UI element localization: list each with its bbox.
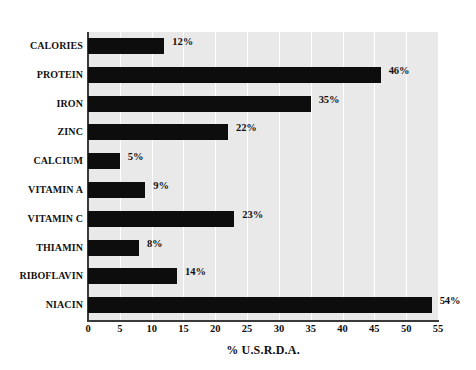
bar-row: 5% (88, 147, 438, 176)
bar (88, 182, 145, 198)
category-label: VITAMIN A (0, 176, 83, 205)
bar-row: 35% (88, 90, 438, 119)
bar (88, 38, 164, 54)
category-label: NIACIN (0, 291, 83, 320)
bar-row: 8% (88, 234, 438, 263)
category-label: CALCIUM (0, 147, 83, 176)
category-label: RIBOFLAVIN (0, 262, 83, 291)
bar-value-label: 14% (185, 266, 206, 277)
bar-row: 22% (88, 118, 438, 147)
bar-row: 54% (88, 291, 438, 320)
category-label: ZINC (0, 118, 83, 147)
bar-value-label: 22% (236, 122, 257, 133)
bar-value-label: 54% (440, 295, 461, 306)
bar-value-label: 23% (242, 209, 263, 220)
x-tick-label: 5 (117, 323, 122, 334)
x-tick-label: 50 (401, 323, 412, 334)
bar-value-label: 35% (319, 94, 340, 105)
bar-row: 12% (88, 32, 438, 61)
bar (88, 124, 228, 140)
x-tick-label: 55 (433, 323, 444, 334)
bar (88, 268, 177, 284)
x-axis-tick-labels: 0510152025303540455055 (88, 323, 438, 341)
bar-value-label: 5% (128, 151, 144, 162)
bar (88, 153, 120, 169)
bar-row: 14% (88, 262, 438, 291)
bar (88, 240, 139, 256)
x-tick-label: 40 (337, 323, 348, 334)
bar (88, 67, 381, 83)
category-label: PROTEIN (0, 61, 83, 90)
category-label: THIAMIN (0, 234, 83, 263)
bar-value-label: 12% (172, 36, 193, 47)
bar (88, 96, 311, 112)
x-tick-label: 35 (305, 323, 316, 334)
bar-value-label: 46% (389, 65, 410, 76)
x-tick-label: 15 (178, 323, 189, 334)
bar-row: 23% (88, 205, 438, 234)
bar (88, 211, 234, 227)
x-axis-line (87, 320, 439, 322)
category-label: CALORIES (0, 32, 83, 61)
x-tick-label: 30 (274, 323, 285, 334)
bar-value-label: 9% (153, 180, 169, 191)
gridline (438, 32, 439, 320)
category-label: IRON (0, 90, 83, 119)
x-tick-label: 10 (146, 323, 157, 334)
x-tick-label: 20 (210, 323, 221, 334)
bar (88, 297, 432, 313)
x-tick-label: 25 (242, 323, 253, 334)
x-tick-label: 0 (85, 323, 90, 334)
bar-row: 46% (88, 61, 438, 90)
bars-layer: 12%46%35%22%5%9%23%8%14%54% (88, 32, 438, 320)
category-label: VITAMIN C (0, 205, 83, 234)
bar-value-label: 8% (147, 238, 163, 249)
x-axis-title: % U.S.R.D.A. (88, 343, 438, 358)
x-tick-label: 45 (369, 323, 380, 334)
category-axis-labels: CALORIESPROTEINIRONZINCCALCIUMVITAMIN AV… (0, 32, 83, 320)
bar-chart: CALORIESPROTEINIRONZINCCALCIUMVITAMIN AV… (0, 0, 476, 370)
bar-row: 9% (88, 176, 438, 205)
